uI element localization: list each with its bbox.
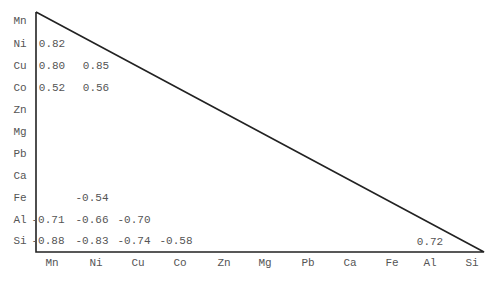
correlation-cell: -0.58 [159, 235, 192, 247]
correlation-cell: -0.88 [31, 235, 64, 247]
row-label: Al [13, 214, 26, 226]
correlation-cell: -0.74 [117, 235, 150, 247]
col-label: Co [173, 257, 186, 269]
row-label: Ca [13, 170, 26, 182]
col-label: Zn [217, 257, 230, 269]
correlation-cell: 0.52 [39, 82, 65, 94]
correlation-cell: 0.80 [39, 60, 65, 72]
correlation-cell: 0.85 [83, 60, 109, 72]
row-label: Mg [13, 126, 26, 138]
col-label: Al [423, 257, 436, 269]
correlation-cell: 0.82 [39, 38, 65, 50]
correlation-cell: 0.56 [83, 82, 109, 94]
row-label: Mn [13, 15, 26, 27]
correlation-triangle-chart: MnNiCuCoZnMgPbCaFeAlSiMnNiCuCoZnMgPbCaFe… [0, 0, 497, 285]
correlation-cell: -0.71 [31, 214, 64, 226]
correlation-cell: -0.54 [75, 192, 108, 204]
correlation-cell: 0.72 [417, 236, 443, 248]
col-label: Fe [385, 257, 398, 269]
col-label: Cu [131, 257, 144, 269]
row-label: Ni [13, 38, 26, 50]
col-label: Si [465, 257, 478, 269]
row-label: Cu [13, 60, 26, 72]
row-label: Zn [13, 104, 26, 116]
row-label: Fe [13, 192, 26, 204]
col-label: Ni [89, 257, 102, 269]
correlation-cell: -0.83 [75, 235, 108, 247]
correlation-cell: -0.70 [117, 214, 150, 226]
correlation-cell: -0.66 [75, 214, 108, 226]
col-label: Mg [258, 257, 271, 269]
col-label: Pb [301, 257, 314, 269]
row-label: Pb [13, 148, 26, 160]
col-label: Ca [343, 257, 356, 269]
row-label: Co [13, 82, 26, 94]
col-label: Mn [45, 257, 58, 269]
row-label: Si [13, 235, 26, 247]
